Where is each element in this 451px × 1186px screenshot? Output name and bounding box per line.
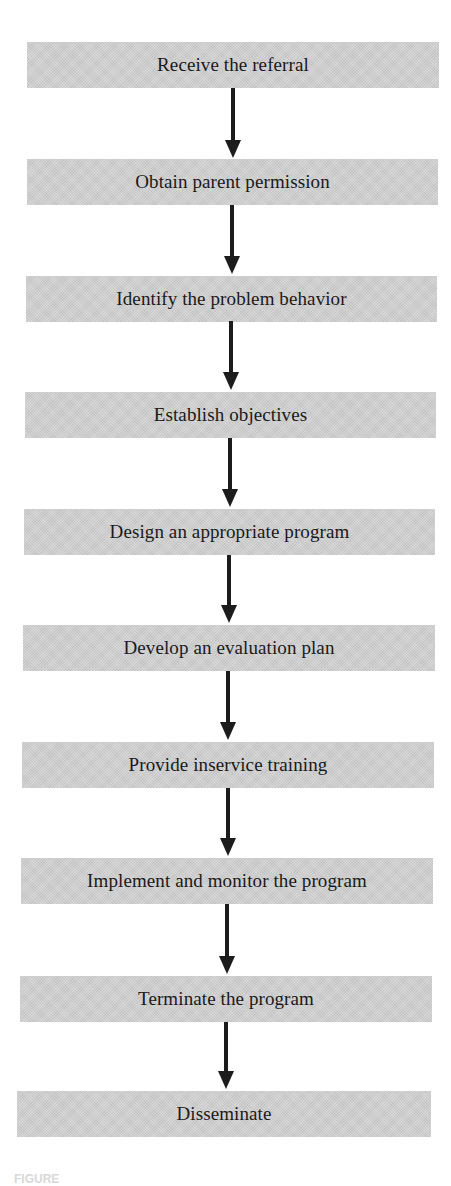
step-label: Receive the referral bbox=[157, 54, 309, 76]
step-receive-referral: Receive the referral bbox=[27, 42, 439, 88]
step-label: Establish objectives bbox=[154, 404, 307, 426]
arrow-down-icon bbox=[221, 321, 241, 392]
step-label: Design an appropriate program bbox=[110, 521, 350, 543]
step-label: Terminate the program bbox=[138, 988, 314, 1010]
arrow-down-icon bbox=[218, 671, 238, 742]
step-label: Identify the problem behavior bbox=[116, 288, 346, 310]
step-disseminate: Disseminate bbox=[17, 1091, 431, 1137]
step-terminate-program: Terminate the program bbox=[20, 976, 432, 1022]
step-establish-objectives: Establish objectives bbox=[25, 392, 436, 438]
arrow-down-icon bbox=[216, 1022, 236, 1091]
step-label: Disseminate bbox=[176, 1103, 271, 1125]
step-identify-problem: Identify the problem behavior bbox=[26, 276, 437, 322]
arrow-down-icon bbox=[218, 788, 238, 858]
arrow-down-icon bbox=[220, 438, 240, 509]
step-implement-monitor: Implement and monitor the program bbox=[21, 858, 433, 904]
step-evaluation-plan: Develop an evaluation plan bbox=[23, 625, 435, 671]
step-inservice-training: Provide inservice training bbox=[22, 742, 434, 788]
arrow-down-icon bbox=[223, 88, 243, 160]
arrow-down-icon bbox=[217, 904, 237, 976]
step-label: Provide inservice training bbox=[129, 754, 328, 776]
step-label: Implement and monitor the program bbox=[87, 870, 367, 892]
arrow-down-icon bbox=[219, 555, 239, 625]
arrow-down-icon bbox=[222, 205, 242, 276]
step-design-program: Design an appropriate program bbox=[24, 509, 435, 555]
step-label: Obtain parent permission bbox=[135, 171, 329, 193]
figure-caption: FIGURE bbox=[14, 1172, 59, 1186]
step-obtain-permission: Obtain parent permission bbox=[27, 159, 438, 205]
step-label: Develop an evaluation plan bbox=[124, 637, 335, 659]
